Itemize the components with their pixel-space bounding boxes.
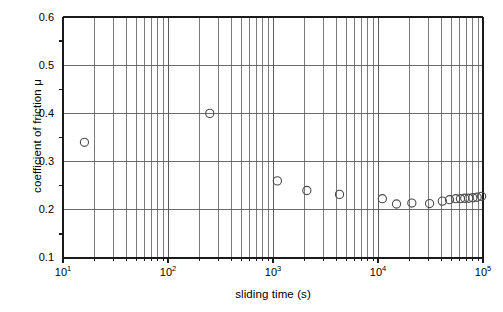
data-point xyxy=(392,200,400,208)
data-point xyxy=(408,199,416,207)
data-point xyxy=(335,190,343,198)
x-tick-label-2: 103 xyxy=(251,264,295,278)
y-tick-label-1: 0.5 xyxy=(10,59,54,71)
y-tick-label-2: 0.4 xyxy=(10,107,54,119)
y-tick-label-5: 0.1 xyxy=(10,251,54,263)
friction-vs-sliding-time-figure: coefficient of friction μ sliding time (… xyxy=(0,0,503,312)
data-point xyxy=(452,195,460,203)
x-tick-label-3: 104 xyxy=(356,264,400,278)
y-tick-label-4: 0.2 xyxy=(10,203,54,215)
data-points xyxy=(80,109,485,208)
grid-lines xyxy=(63,17,483,258)
y-tick-label-3: 0.3 xyxy=(10,155,54,167)
data-point xyxy=(378,195,386,203)
x-tick-label-4: 105 xyxy=(461,264,503,278)
data-point xyxy=(80,138,88,146)
x-axis-label: sliding time (s) xyxy=(63,288,483,300)
data-point xyxy=(273,177,281,185)
x-tick-label-0: 101 xyxy=(41,264,85,278)
data-point xyxy=(425,199,433,207)
data-point xyxy=(303,186,311,194)
x-tick-label-1: 102 xyxy=(146,264,190,278)
y-axis-label: coefficient of friction μ xyxy=(31,16,43,256)
y-tick-label-0: 0.6 xyxy=(10,11,54,23)
